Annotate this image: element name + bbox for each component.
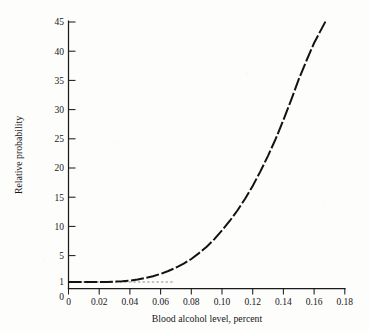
chart-figure: 45 40 35 30 25 20 15 10 5 1 0 0 (0, 0, 369, 333)
y-axis-tick-labels: 45 40 35 30 25 20 15 10 5 1 0 (55, 17, 65, 302)
y-tick-label: 15 (55, 193, 65, 203)
y-tick-label: 35 (55, 76, 65, 86)
x-tick-label: 0.06 (152, 297, 169, 307)
x-axis-ticks (69, 289, 345, 295)
y-tick-label: 0 (59, 292, 64, 302)
x-tick-label: 0.16 (306, 297, 323, 307)
x-tick-label: 0.08 (183, 297, 200, 307)
x-tick-label: 0 (66, 297, 71, 307)
x-tick-label: 0.14 (275, 297, 292, 307)
relative-probability-vs-blood-alcohol-chart: 45 40 35 30 25 20 15 10 5 1 0 0 (0, 0, 369, 333)
y-tick-label: 20 (55, 163, 65, 173)
x-axis-tick-labels: 0 0.02 0.04 0.06 0.08 0.10 0.12 0.14 0.1… (66, 297, 353, 307)
y-axis-ticks (69, 22, 76, 282)
x-tick-label: 0.18 (336, 297, 353, 307)
x-axis-title: Blood alcohol level, percent (152, 313, 263, 324)
y-tick-label: 30 (55, 105, 65, 115)
blood-alcohol-probability-curve (69, 20, 327, 282)
x-tick-label: 0.02 (91, 297, 108, 307)
y-axis-title: Relative probability (13, 116, 24, 194)
x-tick-label: 0.10 (214, 297, 231, 307)
y-tick-label: 45 (55, 17, 65, 27)
y-tick-label: 40 (55, 47, 65, 57)
y-tick-label: 25 (55, 134, 65, 144)
y-tick-label: 1 (59, 277, 64, 287)
x-tick-label: 0.12 (244, 297, 261, 307)
y-tick-label: 5 (59, 251, 64, 261)
y-tick-label: 10 (55, 222, 65, 232)
x-tick-label: 0.04 (122, 297, 139, 307)
